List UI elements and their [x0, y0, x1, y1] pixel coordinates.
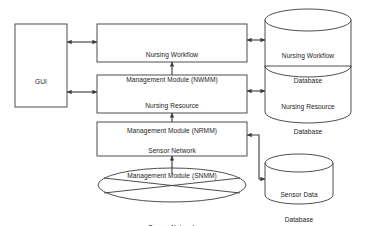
node-gui-label: GUI — [15, 61, 67, 103]
architecture-diagram: GUI Nursing Workflow Management Module (… — [0, 0, 369, 226]
node-sensor-network-label: Sensor Network — [112, 207, 232, 226]
node-nursing-resource-db-label: Nursing Resource Database — [265, 86, 351, 153]
node-snmm-label: Sensor Network Management Module (SNMM) — [97, 130, 247, 197]
connector-snmm-sensor-data-db — [247, 135, 265, 179]
node-sensor-data-db-label: Sensor Data Database — [265, 174, 333, 226]
